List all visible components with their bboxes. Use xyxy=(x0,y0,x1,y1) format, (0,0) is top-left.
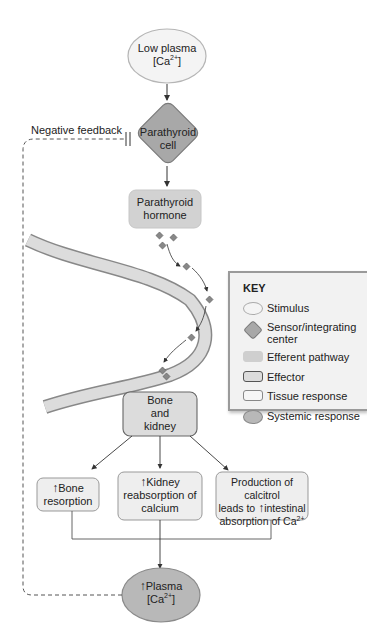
stimulus-label: Low plasma [Ca2+] xyxy=(128,42,206,68)
sensor-label: Parathyroid cell xyxy=(133,126,203,152)
stimulus-line1: Low plasma xyxy=(128,42,206,55)
legend-key: KEY Stimulus Sensor/integratingcenter Ef… xyxy=(228,271,367,411)
key-item-sensor: Sensor/integratingcenter xyxy=(243,321,356,345)
efferent-line1: Parathyroid xyxy=(129,196,201,209)
sensor-line2: cell xyxy=(133,139,203,152)
key-item-systemic: Systemic response xyxy=(243,410,360,424)
efferent-line2: hormone xyxy=(129,209,201,222)
ellipse-light-icon xyxy=(243,302,263,315)
negative-feedback-path xyxy=(23,139,124,595)
key-item-tissue: Tissue response xyxy=(243,390,347,402)
rect-fill-icon xyxy=(243,351,263,362)
ellipse-dark-icon xyxy=(243,410,263,424)
efferent-label: Parathyroid hormone xyxy=(129,196,201,222)
rect-light-icon xyxy=(243,390,263,401)
response-2-label: ↑Kidney reabsorption of calcium xyxy=(118,476,202,515)
rect-dark-border-icon xyxy=(243,371,263,382)
diamond-icon xyxy=(243,320,263,340)
systemic-label: ↑Plasma [Ca2+] xyxy=(122,580,200,606)
stimulus-line2: [Ca2+] xyxy=(128,55,206,68)
effector-line3: kidney xyxy=(123,420,197,433)
negative-feedback-label: Negative feedback xyxy=(31,124,122,137)
response-3-label: Production of calcitrol leads to ↑intest… xyxy=(216,476,308,528)
key-title: KEY xyxy=(243,282,266,294)
response-1-label: ↑Bone resorption xyxy=(37,482,99,508)
key-item-efferent: Efferent pathway xyxy=(243,351,349,363)
key-item-stimulus: Stimulus xyxy=(243,302,309,315)
key-item-effector: Effector xyxy=(243,371,305,383)
effector-line2: and xyxy=(123,407,197,420)
sensor-line1: Parathyroid xyxy=(133,126,203,139)
effector-line1: Bone xyxy=(123,394,197,407)
effector-label: Bone and kidney xyxy=(123,394,197,433)
